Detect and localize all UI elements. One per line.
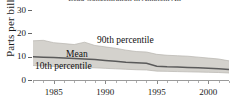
y-tick-mark — [28, 80, 32, 81]
x-tick-mark-major — [54, 81, 55, 84]
x-tick-mark-minor — [136, 81, 137, 83]
annotation-mean: Mean — [66, 49, 88, 59]
x-tick-mark-major — [157, 81, 158, 84]
chart-title-cropped: Lead Concentration in Ambient Air — [40, 0, 210, 4]
y-tick-label: 20 — [0, 29, 26, 38]
x-tick-mark-minor — [219, 81, 220, 83]
y-tick-label: 30 — [0, 6, 26, 15]
x-axis-line — [33, 80, 229, 81]
x-tick-mark-minor — [188, 81, 189, 83]
y-tick-mark — [28, 57, 32, 58]
x-tick-mark-minor — [85, 81, 86, 83]
x-tick-mark-major — [105, 81, 106, 84]
chart-figure: Lead Concentration in Ambient Air Parts … — [0, 0, 244, 103]
x-tick-mark-minor — [126, 81, 127, 83]
x-tick-mark-minor — [116, 81, 117, 83]
y-tick-mark — [28, 10, 32, 11]
x-tick-mark-minor — [146, 81, 147, 83]
x-tick-mark-minor — [74, 81, 75, 83]
x-tick-mark-minor — [229, 81, 230, 83]
x-tick-label: 2000 — [188, 88, 228, 97]
x-tick-mark-minor — [167, 81, 168, 83]
x-tick-mark-minor — [43, 81, 44, 83]
x-tick-mark-minor — [64, 81, 65, 83]
y-tick-label: 10 — [0, 52, 26, 61]
x-tick-label: 1995 — [137, 88, 177, 97]
annotation-p90: 90th percentile — [97, 35, 154, 45]
x-tick-mark-minor — [33, 81, 34, 83]
y-tick-mark — [28, 33, 32, 34]
y-tick-label: 0 — [0, 76, 26, 85]
x-tick-mark-major — [208, 81, 209, 84]
x-tick-mark-minor — [198, 81, 199, 83]
x-tick-label: 1990 — [85, 88, 125, 97]
x-tick-mark-minor — [177, 81, 178, 83]
x-tick-mark-minor — [95, 81, 96, 83]
x-tick-label: 1985 — [34, 88, 74, 97]
chart-title-text: Lead Concentration in Ambient Air — [40, 0, 210, 3]
annotation-p10: 10th percentile — [35, 61, 92, 71]
